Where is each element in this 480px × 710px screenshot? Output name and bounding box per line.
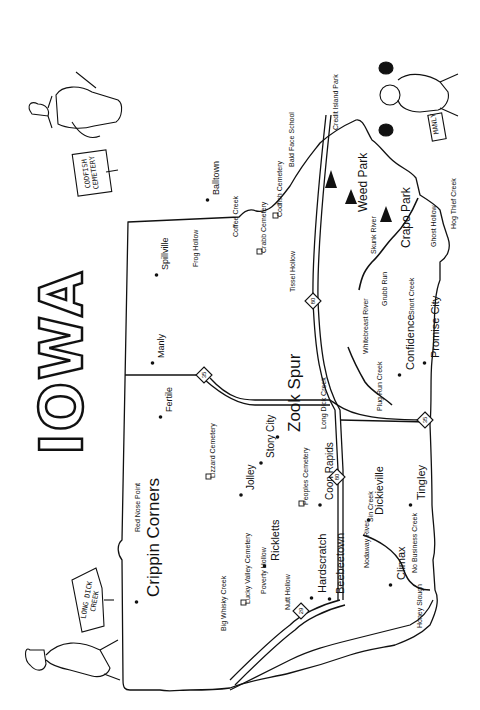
place-label-creek: Big Whisky Creek bbox=[220, 576, 227, 631]
place-label-town: Zook Spur bbox=[286, 354, 303, 432]
svg-text:35: 35 bbox=[201, 371, 207, 378]
town-dot-icon bbox=[159, 415, 163, 419]
town-dot-icon bbox=[155, 273, 159, 277]
town-dot-icon bbox=[239, 493, 243, 497]
place-label-town: Fertile bbox=[165, 387, 174, 412]
place-label-town: Beebeetown bbox=[335, 533, 346, 594]
place-label-town: Tingley bbox=[416, 465, 427, 500]
place-label-creek: Hog Thief Creek bbox=[450, 178, 457, 229]
tree-icon bbox=[380, 206, 392, 222]
road-35b bbox=[205, 380, 330, 405]
place-label-town: Dickieville bbox=[374, 466, 385, 515]
place-label-school: Bald Face School bbox=[288, 112, 295, 167]
town-dot-icon bbox=[328, 597, 332, 601]
place-label-town: Jolley bbox=[246, 464, 256, 490]
svg-text:35: 35 bbox=[422, 416, 428, 423]
town-dot-icon bbox=[276, 435, 280, 439]
river-south bbox=[230, 600, 433, 690]
place-label-town: Hardscratch bbox=[317, 534, 328, 593]
road-35 bbox=[210, 378, 425, 420]
town-dot-icon bbox=[135, 600, 139, 604]
place-label-hollow: Ghost Hollow bbox=[430, 205, 437, 247]
place-label-point: Red Nose Point bbox=[134, 483, 141, 532]
place-label-town: Spillville bbox=[161, 237, 170, 270]
highway-shield-icon: 29 bbox=[293, 603, 309, 619]
whitebreast-river bbox=[348, 347, 392, 405]
place-label-river: Skunk River bbox=[370, 216, 377, 254]
place-label-cemetery: Peoples Cemetery bbox=[302, 447, 309, 505]
farmer-illustration bbox=[29, 72, 122, 137]
town-dot-icon bbox=[423, 361, 427, 365]
place-label-river: Nodaway River bbox=[363, 521, 370, 568]
svg-text:80: 80 bbox=[310, 297, 316, 304]
highway-shield-icon: 35 bbox=[196, 367, 212, 383]
place-label-cemetery: Codfish Cemetery bbox=[276, 161, 283, 217]
place-label-creek: No Business Creek bbox=[411, 513, 418, 573]
place-label-town: Crippin Corners bbox=[145, 478, 162, 597]
place-label-hollow: Poverty Hollow bbox=[260, 547, 267, 594]
place-label-park: Crapo Park bbox=[400, 187, 412, 248]
town-dot-icon bbox=[318, 503, 322, 507]
place-label-park: Credit Island Park bbox=[332, 74, 339, 130]
place-label-park: Weed Park bbox=[357, 153, 369, 212]
place-label-hollow: Frog Hollow bbox=[192, 230, 199, 267]
woman-illustration bbox=[26, 640, 121, 680]
place-label-slough: Honey Slough bbox=[416, 584, 423, 628]
place-label-creek: Sin Creek bbox=[367, 491, 374, 522]
place-label-creek: Grubb Run bbox=[381, 272, 388, 306]
svg-text:29: 29 bbox=[298, 607, 304, 614]
strongman-illustration bbox=[379, 62, 458, 141]
town-dot-icon bbox=[398, 373, 402, 377]
place-label-creek: Coffee Creek bbox=[232, 196, 239, 237]
place-label-town: Balltown bbox=[212, 161, 221, 195]
town-dot-icon bbox=[389, 583, 393, 587]
place-label-cemetery: Crabb Cemetery bbox=[260, 202, 267, 253]
town-dot-icon bbox=[409, 503, 413, 507]
place-label-creek: Long Dick Creek bbox=[320, 377, 327, 429]
place-label-hollow: Nutt Hollow bbox=[284, 574, 291, 610]
town-dot-icon bbox=[151, 361, 155, 365]
place-label-town: Coon Rapids bbox=[325, 442, 335, 500]
place-label-creek: Snort Creek bbox=[408, 278, 415, 315]
place-label-cemetery: Lizzard Cemetery bbox=[209, 423, 216, 478]
place-label-cemetery: Lucky Valley Cemetery bbox=[244, 533, 251, 604]
place-label-town: Confidence bbox=[405, 314, 416, 370]
place-label-town: Story City bbox=[266, 415, 276, 458]
place-label-river: Whitebreast River bbox=[362, 298, 369, 354]
place-label-town: Rickletts bbox=[270, 519, 281, 561]
town-dot-icon bbox=[310, 596, 314, 600]
town-dot-icon bbox=[259, 461, 263, 465]
town-dot-icon bbox=[206, 198, 210, 202]
place-label-town: Climax bbox=[396, 546, 407, 580]
state-title: IOWA bbox=[28, 270, 96, 455]
tree-icon bbox=[325, 170, 337, 188]
place-label-hollow: Tissel Hollow bbox=[289, 251, 296, 292]
place-label-town: Promise City bbox=[430, 296, 441, 358]
place-label-creek: Plug Run Creek bbox=[376, 362, 383, 411]
place-label-town: Manly bbox=[157, 334, 166, 358]
